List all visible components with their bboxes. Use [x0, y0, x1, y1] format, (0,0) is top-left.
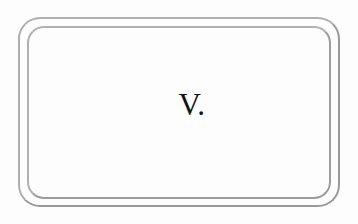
section-heading: V.	[0, 88, 358, 122]
document-page: V.	[0, 0, 358, 224]
